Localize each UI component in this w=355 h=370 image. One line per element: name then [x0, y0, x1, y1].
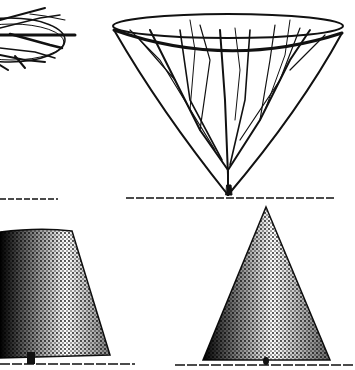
goblet-hoop-tree: [113, 14, 343, 195]
tree-forms-engraving: [0, 0, 355, 370]
truncated-cone-topiary: [0, 229, 110, 364]
pointed-cone-topiary: [203, 207, 330, 365]
flat-crown-tree: [0, 8, 75, 70]
